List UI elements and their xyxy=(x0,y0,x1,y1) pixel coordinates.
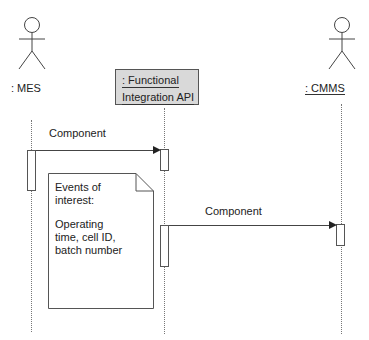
message-2-arrowhead-icon xyxy=(329,221,337,229)
message-2-label: Component xyxy=(205,205,262,217)
message-1-arrow xyxy=(36,150,153,151)
message-2-arrow xyxy=(169,225,329,226)
participant-mes-label: : MES xyxy=(11,82,41,94)
note-line-4: time, cell ID, xyxy=(55,231,122,244)
activation-cmms xyxy=(336,224,345,246)
participant-fia-label-line1: : Functional xyxy=(122,74,179,88)
note-line-5: batch number xyxy=(55,244,122,257)
lifeline-fia xyxy=(164,108,165,334)
participant-fia-label-line2: Integration API xyxy=(122,91,194,105)
participant-cmms-label: : CMMS xyxy=(305,82,345,94)
actor-mes-icon xyxy=(12,14,52,72)
note-line-1: Events of xyxy=(55,181,122,194)
activation-mes xyxy=(27,150,36,191)
lifeline-cmms xyxy=(341,104,342,334)
actor-cmms-icon xyxy=(322,14,362,72)
message-1-label: Component xyxy=(49,127,106,139)
participant-functional-integration-api: : Functional Integration API xyxy=(115,69,199,105)
note-text: Events of interest: Operating time, cell… xyxy=(55,181,122,257)
note-line-2: interest: xyxy=(55,194,122,207)
activation-fia-1 xyxy=(160,149,169,171)
note-line-3: Operating xyxy=(55,218,122,231)
message-1-arrowhead-icon xyxy=(153,146,161,154)
activation-fia-2 xyxy=(160,225,169,267)
